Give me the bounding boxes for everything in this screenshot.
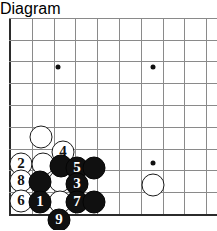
stone-black — [83, 191, 106, 214]
stone-black-move-1: 1 — [29, 191, 52, 214]
stone-black-move-9: 9 — [48, 209, 71, 231]
stone-layer: 428653179 — [0, 18, 217, 230]
stone-move-number: 1 — [36, 194, 44, 209]
stone-white — [142, 174, 165, 197]
go-board-diagram: 428653179 — [0, 18, 217, 230]
stone-white — [30, 126, 53, 149]
stone-move-number: 6 — [17, 193, 25, 208]
stone-move-number: 3 — [73, 176, 81, 191]
stone-move-number: 8 — [17, 173, 25, 188]
stone-move-number: 9 — [55, 212, 63, 227]
stone-move-number: 7 — [73, 194, 81, 209]
